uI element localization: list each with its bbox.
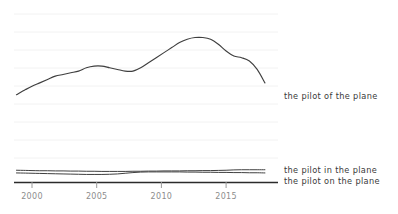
series-label-1: the pilot in the plane bbox=[284, 165, 377, 175]
x-tick-label-2015: 2015 bbox=[215, 192, 237, 201]
series-label-2: the pilot on the plane bbox=[284, 176, 380, 186]
x-axis bbox=[14, 182, 278, 188]
gridline-group bbox=[14, 14, 278, 158]
line-chart: the pilot of the planethe pilot in the p… bbox=[0, 0, 398, 214]
x-tick-label-2005: 2005 bbox=[86, 192, 108, 201]
series-label-0: the pilot of the plane bbox=[284, 91, 378, 101]
series-path-group bbox=[16, 37, 264, 174]
series-line-1 bbox=[16, 170, 264, 172]
x-tick-label-2010: 2010 bbox=[151, 192, 173, 201]
x-tick-label-2000: 2000 bbox=[21, 192, 43, 201]
series-line-2 bbox=[16, 172, 264, 175]
